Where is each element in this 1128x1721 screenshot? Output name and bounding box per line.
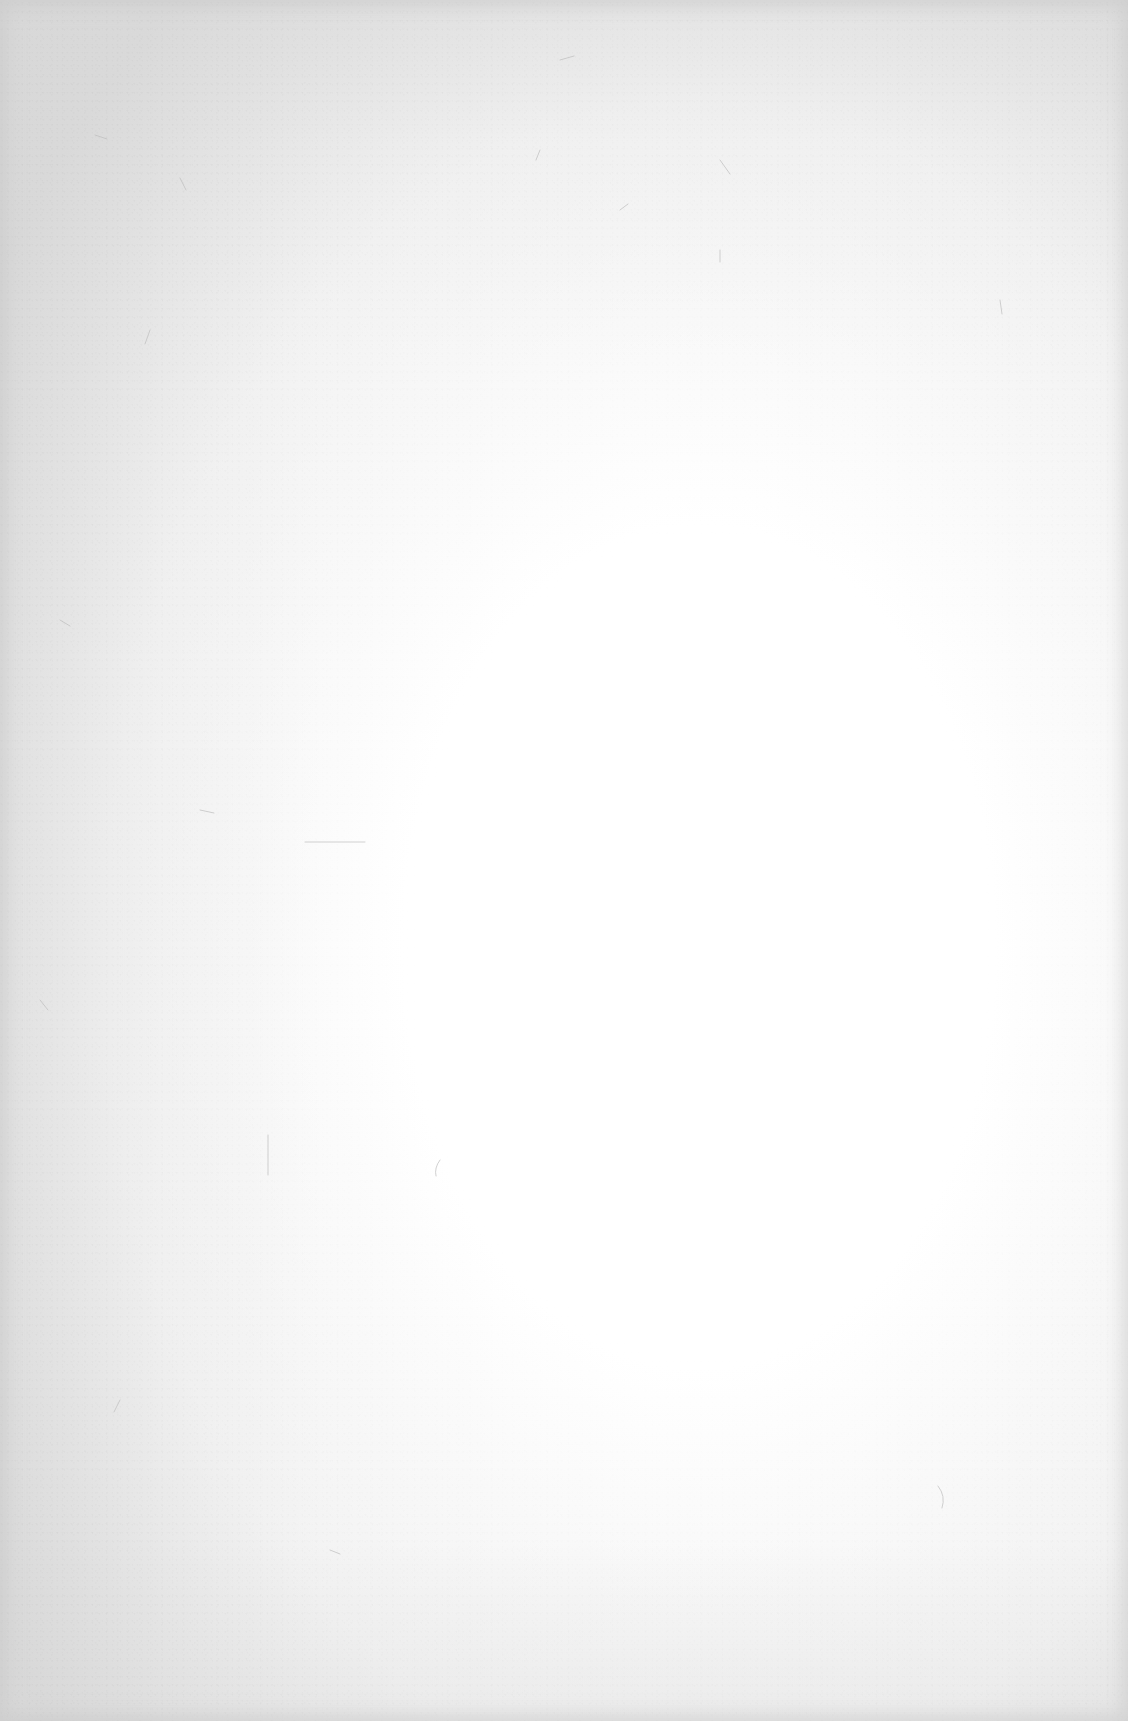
paper-fibers — [0, 0, 1128, 1721]
paper-texture — [0, 0, 1128, 1721]
paper-vignette — [0, 0, 1128, 1721]
paper-edge-shadow — [0, 0, 1128, 1721]
blank-paper-sheet — [0, 0, 1128, 1721]
